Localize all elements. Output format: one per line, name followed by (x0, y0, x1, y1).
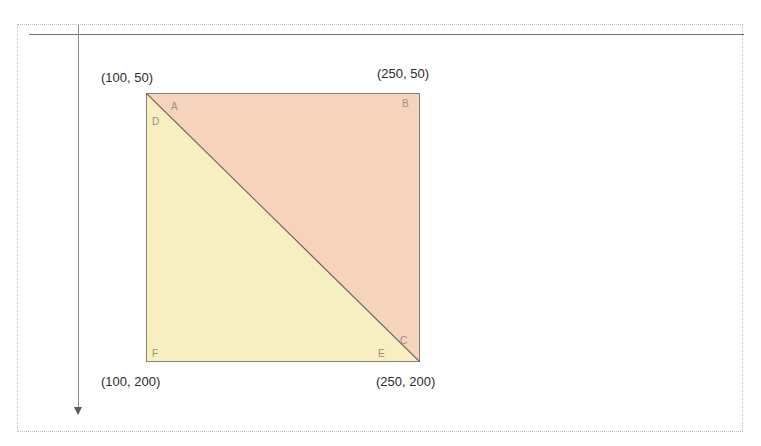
vertex-label-a: A (171, 102, 178, 112)
figure-canvas: (100, 50) (250, 50) (100, 200) (250, 200… (0, 0, 761, 446)
vertex-label-e: E (378, 349, 385, 359)
vertex-label-f: F (152, 349, 158, 359)
square-figure: A B C D E F (146, 93, 420, 362)
coordinate-label-top-left: (100, 50) (101, 70, 153, 85)
down-arrow-icon (74, 407, 82, 415)
diagonal-line (146, 93, 420, 362)
coordinate-label-bottom-left: (100, 200) (101, 374, 160, 389)
horizontal-rule-line (29, 34, 744, 35)
vertex-label-c: C (400, 336, 407, 346)
vertical-guide-line (78, 25, 79, 414)
coordinate-label-top-right: (250, 50) (377, 66, 429, 81)
vertex-label-b: B (402, 99, 409, 109)
vertex-label-d: D (152, 117, 159, 127)
coordinate-label-bottom-right: (250, 200) (376, 374, 435, 389)
